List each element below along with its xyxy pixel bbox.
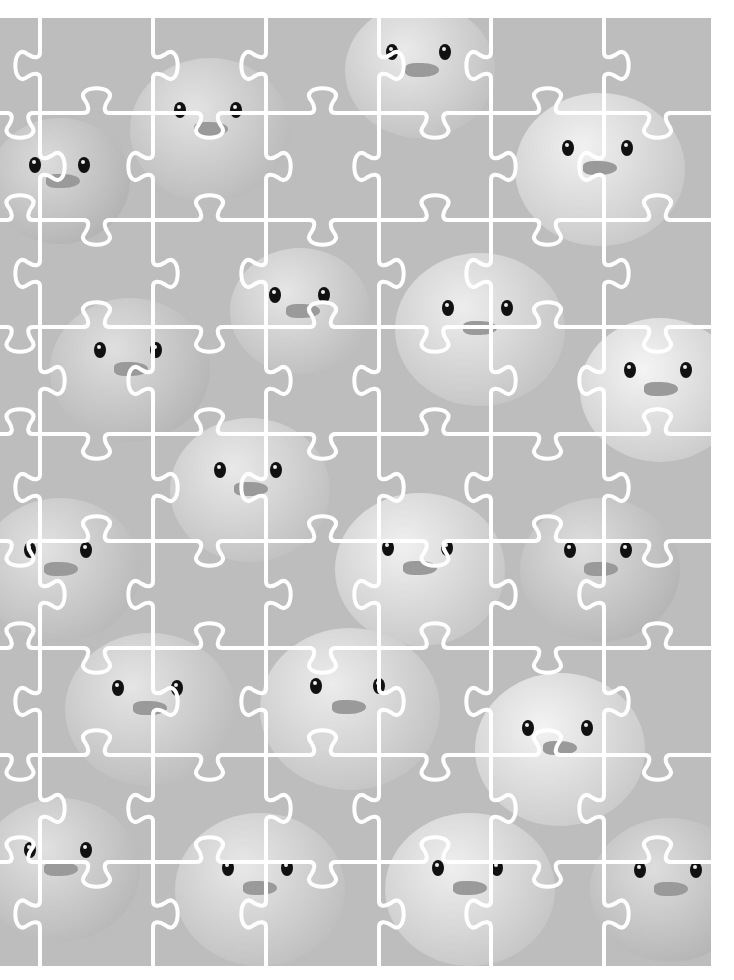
puzzle-image <box>0 18 711 966</box>
puzzle-grid <box>0 18 711 966</box>
puzzle-cut-lines <box>0 18 711 966</box>
